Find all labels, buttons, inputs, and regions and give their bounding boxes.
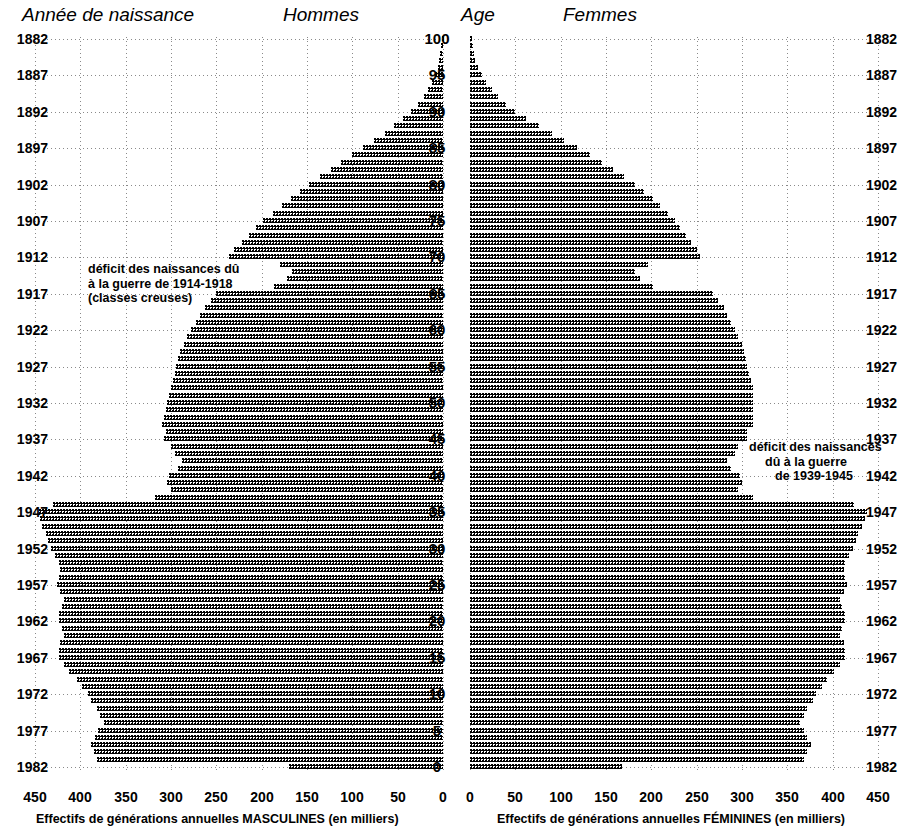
age-label: 75: [414, 212, 460, 229]
bar-female: [470, 371, 749, 376]
bar-female: [470, 553, 849, 558]
bar-female: [470, 444, 738, 449]
bar-male: [59, 648, 443, 653]
x-tick-label-left: 450: [10, 789, 60, 805]
bar-male: [39, 509, 443, 514]
bar-female: [470, 254, 700, 259]
bar-female: [470, 305, 724, 310]
year-label-left: 1982: [4, 759, 48, 775]
bar-female: [470, 655, 845, 660]
gridline-horizontal: [35, 75, 443, 76]
bar-female: [470, 575, 845, 580]
gridline-horizontal: [470, 75, 878, 76]
bar-female: [470, 473, 740, 478]
bar-male: [196, 320, 443, 325]
bar-female: [470, 611, 845, 616]
bar-female: [470, 152, 590, 157]
age-label: 15: [414, 649, 460, 666]
bar-female: [470, 466, 731, 471]
bar-female: [470, 167, 613, 172]
bar-male: [59, 560, 443, 565]
year-label-right: 1907: [866, 213, 897, 229]
bar-male: [292, 269, 443, 274]
bar-female: [470, 524, 862, 529]
x-tick-label-right: 400: [808, 789, 858, 805]
bar-female: [470, 604, 842, 609]
bar-male: [98, 728, 443, 733]
year-label-right: 1972: [866, 686, 897, 702]
bar-female: [470, 487, 738, 492]
bar-male: [48, 538, 443, 543]
x-tick-label-left: 250: [191, 789, 241, 805]
bar-female: [470, 51, 474, 56]
x-tick-label-right: 150: [581, 789, 631, 805]
age-label: 40: [414, 467, 460, 484]
bar-female: [470, 131, 552, 136]
bar-male: [173, 378, 443, 383]
bar-male: [178, 466, 443, 471]
bar-male: [234, 247, 443, 252]
bar-female: [470, 349, 744, 354]
age-label: 25: [414, 576, 460, 593]
bar-female: [470, 735, 807, 740]
bar-female: [470, 65, 478, 70]
year-label-right: 1977: [866, 723, 897, 739]
bar-female: [470, 698, 813, 703]
year-label-right: 1982: [866, 759, 897, 775]
year-label-right: 1917: [866, 286, 897, 302]
bar-male: [211, 298, 443, 303]
age-label: 95: [414, 66, 460, 83]
bar-female: [470, 291, 713, 296]
bar-female: [470, 385, 753, 390]
bar-female: [470, 495, 753, 500]
annotation-ww1-line1: déficit des naissances dû: [88, 262, 239, 276]
bar-male: [287, 276, 443, 281]
bar-female: [470, 691, 816, 696]
year-label-left: 1977: [4, 723, 48, 739]
year-label-right: 1932: [866, 395, 897, 411]
bar-male: [200, 313, 443, 318]
x-tick-label-right: 350: [762, 789, 812, 805]
bar-male: [62, 604, 443, 609]
bar-female: [470, 764, 622, 769]
bar-male: [291, 196, 443, 201]
age-label: 0: [414, 758, 460, 775]
gridline-horizontal: [35, 39, 443, 40]
bar-female: [470, 626, 842, 631]
bar-female: [470, 567, 844, 572]
bar-female: [470, 313, 727, 318]
bar-male: [97, 706, 443, 711]
bar-female: [470, 422, 753, 427]
bar-female: [470, 80, 486, 85]
age-label: 50: [414, 394, 460, 411]
age-label: 100: [414, 30, 460, 47]
bar-male: [164, 436, 443, 441]
year-label-right: 1897: [866, 140, 897, 156]
bar-female: [470, 320, 731, 325]
age-label: 55: [414, 358, 460, 375]
bar-female: [470, 211, 668, 216]
bar-female: [470, 400, 753, 405]
bar-female: [470, 648, 845, 653]
right-axis-caption: Effectifs de générations annuelles FÉMIN…: [497, 812, 845, 826]
year-label-right: 1957: [866, 577, 897, 593]
bar-male: [428, 87, 443, 92]
bar-female: [470, 677, 827, 682]
bar-female: [470, 174, 624, 179]
annotation-ww2-line3: de 1939-1945: [749, 469, 882, 484]
year-label-left: 1957: [4, 577, 48, 593]
x-tick-label-left: 150: [282, 789, 332, 805]
bar-female: [470, 225, 680, 230]
bar-female: [470, 480, 742, 485]
year-label-left: 1902: [4, 177, 48, 193]
bar-female: [470, 218, 675, 223]
bar-female: [470, 516, 865, 521]
age-label: 35: [414, 503, 460, 520]
bar-male: [59, 618, 443, 623]
bar-male: [184, 342, 443, 347]
x-tick-label-left: 200: [237, 789, 287, 805]
bar-female: [470, 203, 660, 208]
year-label-left: 1947: [4, 504, 48, 520]
bar-female: [470, 116, 526, 121]
year-label-right: 1912: [866, 249, 897, 265]
